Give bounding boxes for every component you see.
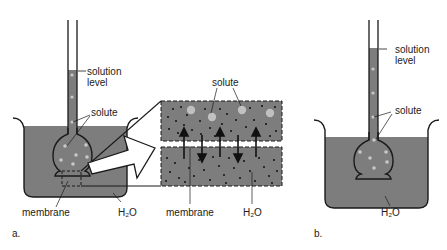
membrane-inset: [161, 88, 282, 204]
panel-label-a: a.: [12, 228, 20, 239]
panel-a-apparatus: [13, 20, 161, 207]
label-membrane-a: membrane: [22, 207, 70, 218]
solution-text: solution: [395, 44, 429, 55]
level-text: level: [87, 77, 121, 88]
label-solute-a: solute: [91, 107, 118, 118]
panel-label-b: b.: [314, 228, 322, 239]
label-solute-inset: solute: [212, 77, 239, 88]
label-water-inset: H₂O: [243, 207, 262, 218]
label-water-a: H₂O: [118, 207, 137, 218]
label-membrane-inset: membrane: [166, 207, 214, 218]
label-solution-level-a: solution level: [87, 66, 121, 88]
solution-text: solution: [87, 66, 121, 77]
level-text: level: [395, 55, 429, 66]
label-water-b: H₂O: [381, 207, 400, 218]
label-solute-b: solute: [395, 105, 422, 116]
label-solution-level-b: solution level: [395, 44, 429, 66]
